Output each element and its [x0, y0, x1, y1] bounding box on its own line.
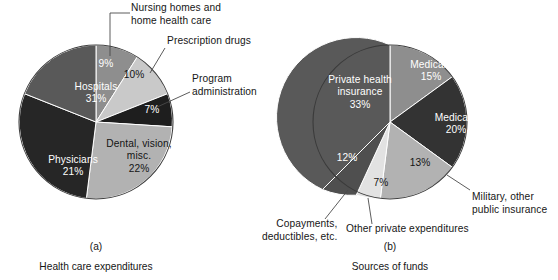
- callout-program-administration: Program administration: [192, 73, 257, 98]
- callout-nursing-line2: home health care: [131, 15, 221, 28]
- callout-prescription-text: Prescription drugs: [167, 35, 251, 48]
- label-medicaid-name: Medicaid: [403, 59, 459, 71]
- label-physicians: Physicians 21%: [42, 154, 104, 179]
- label-nursing-pct: 9%: [92, 58, 120, 70]
- label-hospitals: Hospitals 31%: [69, 81, 123, 106]
- callout-prescription-drugs: Prescription drugs: [167, 35, 251, 48]
- label-dental-line1: Dental, vision,: [104, 138, 174, 150]
- callout-military-other-public: Military, other public insurance: [472, 191, 547, 216]
- label-medicare-name: Medicare: [427, 112, 485, 124]
- leader-line-copayments: [325, 190, 348, 219]
- callout-copayments: Copayments, deductibles, etc.: [262, 218, 337, 243]
- label-program-pct: 7%: [139, 104, 165, 116]
- label-dental-pct: 22%: [104, 163, 174, 175]
- label-private-line1: Private health: [317, 74, 403, 86]
- label-physicians-name: Physicians: [42, 154, 104, 166]
- label-private-line2: insurance: [317, 86, 403, 98]
- callout-program-line1: Program: [192, 73, 257, 86]
- callout-program-line2: administration: [192, 86, 257, 99]
- callout-other-private-text: Other private expenditures: [346, 223, 469, 236]
- leader-line-prescription: [150, 48, 165, 73]
- label-medicaid-pct: 15%: [403, 71, 459, 83]
- label-medicaid: Medicaid 15%: [403, 59, 459, 84]
- pie-chart-figure: Nursing homes and home health care Presc…: [0, 0, 558, 280]
- callout-copay-line1: Copayments,: [262, 218, 337, 231]
- callout-nursing-line1: Nursing homes and: [131, 2, 221, 15]
- label-dental-line2: misc.: [104, 150, 174, 162]
- leader-line-military: [447, 175, 470, 190]
- label-copayments-pct: 12%: [331, 152, 363, 164]
- label-physicians-pct: 21%: [42, 166, 104, 178]
- leader-line-other-private: [368, 198, 372, 224]
- caption-chart-a: Health care expenditures: [31, 260, 161, 273]
- label-hospitals-pct: 31%: [69, 93, 123, 105]
- label-private-pct: 33%: [317, 99, 403, 111]
- panel-letter-a: (a): [66, 240, 126, 253]
- label-military-pct: 13%: [404, 157, 436, 169]
- caption-chart-b: Sources of funds: [345, 260, 435, 273]
- label-medicare: Medicare 20%: [427, 112, 485, 137]
- label-hospitals-name: Hospitals: [69, 81, 123, 93]
- label-other-private-pct: 7%: [368, 177, 394, 189]
- callout-nursing-homes: Nursing homes and home health care: [131, 2, 221, 27]
- label-private-health-insurance: Private health insurance 33%: [317, 74, 403, 111]
- callout-other-private-expenditures: Other private expenditures: [346, 223, 469, 236]
- callout-copay-line2: deductibles, etc.: [262, 231, 337, 244]
- panel-letter-b: (b): [360, 240, 420, 253]
- callout-military-line2: public insurance: [472, 204, 547, 217]
- label-prescription-pct: 10%: [118, 69, 150, 81]
- label-medicare-pct: 20%: [427, 124, 485, 136]
- callout-military-line1: Military, other: [472, 191, 547, 204]
- label-dental-vision-misc: Dental, vision, misc. 22%: [104, 138, 174, 175]
